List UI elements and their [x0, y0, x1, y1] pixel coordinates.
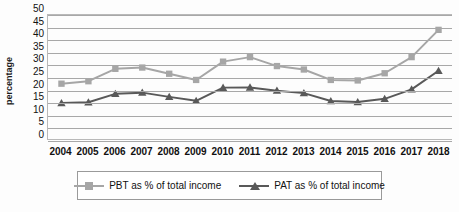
y-tick-label: 35	[18, 42, 44, 52]
gridline	[48, 53, 452, 54]
data-point-marker	[58, 81, 64, 87]
x-tick-label: 2006	[103, 146, 125, 157]
gridline	[48, 116, 452, 117]
gridline	[48, 40, 452, 41]
legend-item-pbt-label: PBT as % of total income	[109, 180, 221, 191]
data-point-marker	[434, 67, 442, 74]
data-point-marker	[85, 78, 91, 84]
y-axis-title-label: percentage	[4, 57, 14, 105]
data-point-marker	[274, 63, 280, 69]
x-tick-label: 2017	[400, 146, 422, 157]
y-tick-label: 30	[18, 54, 44, 64]
y-axis-tick-labels: 05101520253035404550	[18, 9, 44, 141]
y-tick-label: 0	[18, 130, 44, 140]
chart-container: percentage 05101520253035404550 20042005…	[0, 0, 459, 212]
data-point-marker	[247, 54, 253, 60]
y-tick-label: 20	[18, 80, 44, 90]
data-point-marker	[408, 54, 414, 60]
y-tick-label: 25	[18, 67, 44, 77]
x-tick-label: 2014	[319, 146, 341, 157]
x-tick-label: 2009	[184, 146, 206, 157]
x-tick-label: 2004	[49, 146, 71, 157]
x-tick-label: 2010	[211, 146, 233, 157]
gridline	[48, 15, 452, 16]
x-tick-label: 2007	[130, 146, 152, 157]
gridline	[48, 28, 452, 29]
data-point-marker	[166, 71, 172, 77]
y-tick-label: 15	[18, 92, 44, 102]
gridline	[48, 65, 452, 66]
gridline	[48, 128, 452, 129]
x-tick-label: 2016	[373, 146, 395, 157]
y-tick-label: 40	[18, 29, 44, 39]
x-tick-label: 2015	[346, 146, 368, 157]
plot-area	[47, 14, 452, 140]
legend-item-pat[interactable]: PAT as % of total income	[239, 180, 385, 192]
data-point-marker	[112, 66, 118, 72]
legend-item-pbt[interactable]: PBT as % of total income	[74, 180, 221, 192]
x-tick-label: 2018	[427, 146, 449, 157]
y-tick-label: 50	[18, 4, 44, 14]
data-point-marker	[220, 58, 226, 64]
data-point-marker	[381, 70, 387, 76]
x-axis-tick-labels: 2004200520062007200820092010201120122013…	[47, 146, 452, 160]
legend-marker-triangle-icon	[239, 180, 269, 192]
legend-item-pat-label: PAT as % of total income	[274, 180, 385, 191]
x-tick-label: 2005	[76, 146, 98, 157]
gridline	[48, 91, 452, 92]
chart-legend: PBT as % of total income PAT as % of tot…	[77, 171, 382, 200]
gridline	[48, 103, 452, 104]
x-tick-label: 2008	[157, 146, 179, 157]
y-tick-label: 10	[18, 105, 44, 115]
x-tick-label: 2011	[239, 146, 261, 157]
legend-marker-square-icon	[74, 180, 104, 192]
y-axis-title: percentage	[2, 40, 16, 122]
data-point-marker	[301, 66, 307, 72]
y-tick-label: 5	[18, 117, 44, 127]
y-tick-label: 45	[18, 17, 44, 27]
x-tick-label: 2013	[292, 146, 314, 157]
series-lines	[48, 15, 452, 139]
gridline	[48, 141, 452, 142]
x-tick-label: 2012	[265, 146, 287, 157]
gridline	[48, 78, 452, 79]
